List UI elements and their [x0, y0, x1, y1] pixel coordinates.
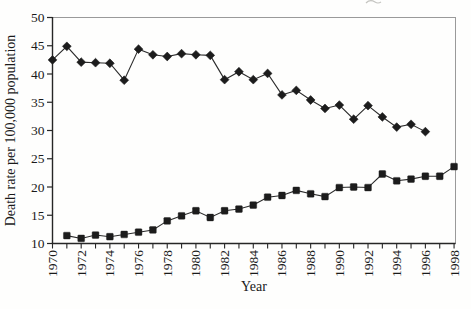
data-point-square	[106, 233, 113, 240]
plot-area: 1015202530354045501970197219741976197819…	[31, 10, 462, 277]
x-tick-label: 1982	[217, 250, 232, 277]
x-tick-label: 1990	[332, 250, 347, 277]
data-point-diamond	[321, 104, 330, 113]
x-tick-label: 1998	[447, 250, 462, 277]
data-point-square	[293, 187, 300, 194]
data-point-square	[221, 207, 228, 214]
data-point-square	[350, 184, 357, 191]
data-point-square	[408, 176, 415, 183]
data-point-diamond	[278, 91, 287, 100]
data-point-diamond	[306, 96, 315, 105]
data-point-diamond	[235, 67, 244, 76]
data-point-square	[336, 184, 343, 191]
data-point-diamond	[177, 49, 186, 58]
data-point-square	[135, 229, 142, 236]
data-point-diamond	[192, 50, 201, 59]
x-tick-label: 1994	[389, 250, 404, 277]
data-point-square	[322, 193, 329, 200]
y-tick-label: 10	[31, 236, 45, 251]
x-tick-label: 1992	[361, 250, 376, 277]
data-point-square	[63, 232, 70, 239]
data-point-square	[379, 171, 386, 178]
data-point-diamond	[206, 51, 215, 60]
x-tick-label: 1972	[74, 250, 89, 277]
line-chart: 1015202530354045501970197219741976197819…	[0, 0, 471, 309]
data-point-diamond	[220, 75, 229, 84]
upper-declining-series-line	[53, 46, 426, 131]
plot-frame	[53, 18, 456, 244]
y-tick-label: 45	[31, 38, 45, 53]
data-point-square	[264, 194, 271, 201]
data-point-square	[178, 212, 185, 219]
x-tick-label: 1978	[160, 250, 175, 277]
y-tick-label: 30	[31, 123, 45, 138]
data-point-square	[436, 173, 443, 180]
y-tick-label: 50	[31, 10, 45, 25]
data-point-diamond	[148, 50, 157, 59]
x-tick-label: 1986	[274, 250, 289, 277]
data-point-square	[193, 207, 200, 214]
x-tick-label: 1984	[246, 250, 261, 277]
data-point-square	[451, 163, 458, 170]
data-point-square	[164, 218, 171, 225]
data-point-square	[207, 214, 214, 221]
data-point-square	[236, 206, 243, 213]
data-point-square	[307, 190, 314, 197]
data-point-square	[422, 173, 429, 180]
data-point-diamond	[407, 120, 416, 129]
data-point-diamond	[263, 69, 272, 78]
y-axis-title: Death rate per 100,000 population	[3, 35, 18, 227]
x-tick-label: 1970	[45, 250, 60, 277]
data-point-square	[365, 184, 372, 191]
y-tick-label: 25	[31, 151, 45, 166]
x-tick-label: 1976	[131, 250, 146, 277]
cropped-text-artifact	[366, 1, 381, 3]
data-point-square	[121, 231, 128, 238]
y-tick-label: 20	[31, 180, 45, 195]
data-point-square	[250, 202, 257, 209]
data-point-diamond	[292, 86, 301, 95]
chart-figure: 1015202530354045501970197219741976197819…	[0, 0, 471, 309]
data-point-square	[149, 227, 156, 234]
x-tick-label: 1974	[102, 250, 117, 277]
y-tick-label: 40	[31, 67, 45, 82]
data-point-diamond	[134, 45, 143, 54]
data-point-square	[78, 235, 85, 242]
data-point-square	[92, 232, 99, 239]
data-point-diamond	[249, 75, 258, 84]
x-axis-title: Year	[241, 279, 267, 294]
data-point-diamond	[163, 52, 172, 61]
x-tick-label: 1996	[418, 250, 433, 277]
data-point-diamond	[421, 127, 430, 136]
y-tick-label: 15	[31, 208, 45, 223]
data-point-square	[279, 192, 286, 199]
y-tick-label: 35	[31, 95, 45, 110]
data-point-square	[393, 177, 400, 184]
x-tick-label: 1988	[303, 250, 318, 277]
data-point-diamond	[392, 123, 401, 132]
data-point-diamond	[91, 58, 100, 67]
x-tick-label: 1980	[188, 250, 203, 277]
